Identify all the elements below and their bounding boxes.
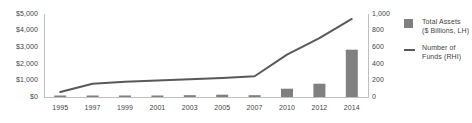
x-axis-tick-2001: 2001 [140, 104, 174, 112]
chart-legend: Total Assets ($ Billions, LH) Number of … [404, 18, 472, 70]
x-axis-tick-2014: 2014 [335, 104, 369, 112]
bar-2012 [313, 84, 325, 97]
bar-1997 [87, 96, 99, 98]
bar-1999 [119, 96, 131, 98]
bar-swatch-icon [404, 18, 422, 28]
x-axis-tick-2003: 2003 [173, 104, 207, 112]
legend-item-total-assets: Total Assets ($ Billions, LH) [404, 18, 472, 35]
x-axis-tick-2010: 2010 [270, 104, 304, 112]
bar-1995 [54, 96, 66, 98]
chart-container: $5,000 $4,000 $3,000 $2,000 $1,000 $0 1,… [0, 0, 472, 123]
x-axis-tick-2007: 2007 [238, 104, 272, 112]
x-axis-tick-2005: 2005 [205, 104, 239, 112]
legend-label-number-of-funds-line1: Number of [422, 44, 461, 53]
line-swatch-icon [404, 44, 422, 51]
x-axis-tick-2012: 2012 [302, 104, 336, 112]
x-axis-tick-1997: 1997 [76, 104, 110, 112]
x-axis-tick-1999: 1999 [108, 104, 142, 112]
bar-2005 [216, 95, 228, 97]
bar-2003 [184, 95, 196, 97]
legend-label-number-of-funds-line2: Funds (RHI) [422, 53, 461, 62]
bar-series [54, 50, 358, 97]
legend-label-total-assets-line1: Total Assets [422, 18, 469, 27]
legend-item-number-of-funds: Number of Funds (RHI) [404, 44, 472, 61]
bar-2010 [281, 89, 293, 97]
line-series [60, 19, 352, 92]
bar-2014 [346, 50, 358, 97]
legend-label-number-of-funds: Number of Funds (RHI) [422, 44, 461, 61]
bar-2007 [249, 95, 261, 97]
bar-2001 [151, 96, 163, 98]
x-axis-tick-1995: 1995 [43, 104, 77, 112]
legend-label-total-assets: Total Assets ($ Billions, LH) [422, 18, 469, 35]
legend-label-total-assets-line2: ($ Billions, LH) [422, 27, 469, 36]
